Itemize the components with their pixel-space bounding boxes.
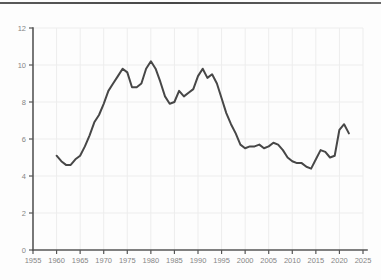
x-tick-label: 1965 [72, 256, 89, 265]
data-line [57, 61, 349, 168]
x-tick-label: 1960 [48, 256, 65, 265]
x-tick-label: 1990 [190, 256, 207, 265]
x-tick-label: 1975 [119, 256, 136, 265]
ticks [29, 28, 363, 254]
y-tick-label: 12 [18, 24, 26, 33]
y-tick-label: 6 [22, 135, 26, 144]
line-chart: 1955196019651970197519801985199019952000… [0, 0, 381, 280]
x-tick-label: 1985 [166, 256, 183, 265]
x-tick-label: 1995 [213, 256, 230, 265]
y-tick-labels: 024681012 [18, 24, 26, 255]
y-tick-label: 2 [22, 209, 26, 218]
y-tick-label: 10 [18, 61, 26, 70]
gridlines [33, 28, 363, 250]
x-tick-label: 2015 [308, 256, 325, 265]
chart-container: 1955196019651970197519801985199019952000… [0, 0, 381, 280]
y-tick-label: 8 [22, 98, 26, 107]
x-tick-labels: 1955196019651970197519801985199019952000… [25, 256, 372, 265]
x-tick-label: 2025 [355, 256, 372, 265]
x-tick-label: 1970 [95, 256, 112, 265]
x-tick-label: 1980 [143, 256, 160, 265]
x-tick-label: 2020 [331, 256, 348, 265]
x-tick-label: 1955 [25, 256, 42, 265]
y-tick-label: 4 [22, 172, 26, 181]
y-tick-label: 0 [22, 246, 26, 255]
x-tick-label: 2000 [237, 256, 254, 265]
x-tick-label: 2005 [260, 256, 277, 265]
x-tick-label: 2010 [284, 256, 301, 265]
